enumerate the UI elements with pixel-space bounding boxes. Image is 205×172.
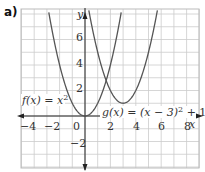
y-tick: −2 <box>70 137 86 150</box>
x-tick: 8 <box>184 120 191 133</box>
x-tick: 6 <box>158 120 165 133</box>
y-axis-up-arrow-icon <box>83 12 88 19</box>
x-tick: −4 <box>20 120 36 133</box>
y-tick: 6 <box>76 31 83 44</box>
x-tick: −2 <box>44 120 60 133</box>
x-tick: 0 <box>73 120 80 133</box>
f-label: f(x) = x2 <box>21 93 68 107</box>
y-axis-label: y <box>76 8 84 21</box>
x-tick: 2 <box>107 120 114 133</box>
graph: x y −4 −2 0 2 4 6 8 6 4 2 −2 f(x) = x2 g… <box>0 0 205 172</box>
g-label: g(x) = (x − 3)2 + 1 <box>102 105 205 119</box>
y-tick: 4 <box>76 57 83 70</box>
y-tick: 2 <box>76 82 83 95</box>
x-tick: 4 <box>133 120 140 133</box>
